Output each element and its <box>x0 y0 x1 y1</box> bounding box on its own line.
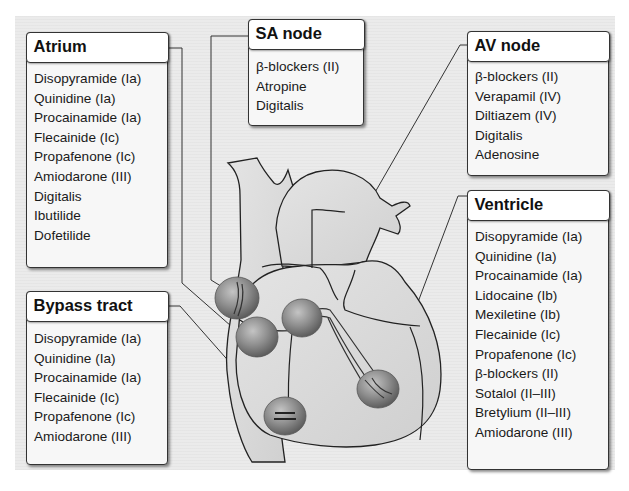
drug-item: Ibutilide <box>34 206 141 226</box>
bypass-tract-drug-list: Disopyramide (Ia) Quinidine (Ia) Procain… <box>34 329 141 447</box>
drug-item: Amiodarone (III) <box>475 423 582 443</box>
sa-node-title: SA node <box>248 19 365 50</box>
drug-item: Flecainide (Ic) <box>34 128 141 148</box>
drug-item: Procainamide (Ia) <box>34 108 141 128</box>
atrium-drug-list: Disopyramide (Ia) Quinidine (Ia) Procain… <box>34 69 141 245</box>
drug-item: Procainamide (Ia) <box>34 368 141 388</box>
ventricle-title: Ventricle <box>467 190 610 221</box>
drug-item: Flecainide (Ic) <box>475 325 582 345</box>
av-node-title: AV node <box>467 31 610 62</box>
drug-item: Propafenone (Ic) <box>34 147 141 167</box>
heart-outline <box>227 158 441 462</box>
drug-item: Quinidine (Ia) <box>475 247 582 267</box>
sa-node-box: SA node β-blockers (II) Atropine Digital… <box>248 19 364 126</box>
drug-item: Procainamide (Ia) <box>475 266 582 286</box>
av-node-site <box>282 299 322 337</box>
bypass-tract-site <box>264 397 306 435</box>
drug-item: β-blockers (II) <box>475 364 582 384</box>
drug-item: Disopyramide (Ia) <box>34 329 141 349</box>
drug-item: Amiodarone (III) <box>34 167 141 187</box>
atrium-title: Atrium <box>26 32 169 63</box>
drug-item: Quinidine (Ia) <box>34 349 141 369</box>
drug-item: β-blockers (II) <box>256 57 339 77</box>
ventricle-box: Ventricle Disopyramide (Ia) Quinidine (I… <box>467 190 609 470</box>
drug-item: Propafenone (Ic) <box>475 345 582 365</box>
drug-item: Mexiletine (Ib) <box>475 305 582 325</box>
ventricle-site <box>357 370 399 408</box>
drug-item: Atropine <box>256 77 339 97</box>
drug-item: Dofetilide <box>34 226 141 246</box>
av-node-box: AV node β-blockers (II) Verapamil (IV) D… <box>467 31 609 176</box>
ventricle-drug-list: Disopyramide (Ia) Quinidine (Ia) Procain… <box>475 227 582 443</box>
drug-item: Digitalis <box>475 126 561 146</box>
sa-node-drug-list: β-blockers (II) Atropine Digitalis <box>256 57 339 116</box>
drug-item: Verapamil (IV) <box>475 87 561 107</box>
drug-item: β-blockers (II) <box>475 67 561 87</box>
drug-item: Digitalis <box>34 187 141 207</box>
bypass-tract-box: Bypass tract Disopyramide (Ia) Quinidine… <box>26 291 168 465</box>
atrium-site <box>236 317 278 357</box>
bypass-tract-title: Bypass tract <box>26 291 169 322</box>
atrium-box: Atrium Disopyramide (Ia) Quinidine (Ia) … <box>26 32 168 268</box>
drug-item: Flecainide (Ic) <box>34 388 141 408</box>
drug-item: Propafenone (Ic) <box>34 407 141 427</box>
drug-item: Amiodarone (III) <box>34 427 141 447</box>
drug-item: Disopyramide (Ia) <box>34 69 141 89</box>
drug-item: Digitalis <box>256 96 339 116</box>
drug-item: Disopyramide (Ia) <box>475 227 582 247</box>
av-node-drug-list: β-blockers (II) Verapamil (IV) Diltiazem… <box>475 67 561 165</box>
drug-item: Diltiazem (IV) <box>475 106 561 126</box>
drug-item: Adenosine <box>475 145 561 165</box>
drug-item: Quinidine (Ia) <box>34 89 141 109</box>
drug-item: Lidocaine (Ib) <box>475 286 582 306</box>
drug-item: Bretylium (II–III) <box>475 403 582 423</box>
drug-item: Sotalol (II–III) <box>475 384 582 404</box>
